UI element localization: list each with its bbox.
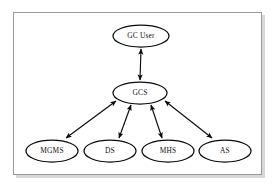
node-gcs[interactable]: GCS [113, 82, 167, 104]
node-gc-user-label: GC User [127, 31, 155, 40]
node-gc-user[interactable]: GC User [113, 25, 169, 47]
node-ds[interactable]: DS [84, 140, 136, 162]
diagram-canvas: GC User GCS MGMS DS MHS AS [0, 0, 275, 191]
node-ds-label: DS [105, 146, 115, 155]
node-as[interactable]: AS [199, 140, 251, 162]
node-mgms-label: MGMS [40, 146, 63, 155]
node-gcs-label: GCS [133, 88, 148, 97]
architecture-diagram: GC User GCS MGMS DS MHS AS [0, 0, 275, 191]
node-mgms[interactable]: MGMS [26, 140, 78, 162]
node-mhs-label: MHS [160, 146, 177, 155]
node-mhs[interactable]: MHS [142, 140, 194, 162]
node-as-label: AS [220, 146, 230, 155]
